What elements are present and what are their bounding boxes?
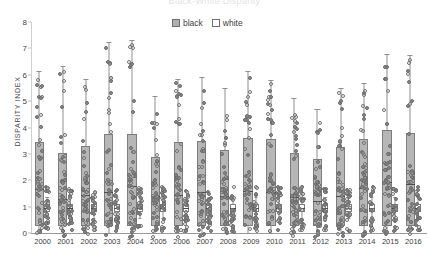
year-group-2004[interactable]: 2004 [124,22,147,233]
box-white-2007[interactable] [206,22,212,233]
box-black-2014[interactable] [359,22,368,233]
year-group-2006[interactable]: 2006 [170,22,193,233]
box-white-2009[interactable] [253,22,259,233]
data-point [36,206,40,210]
year-group-2014[interactable]: 2014 [355,22,378,233]
data-point [246,95,250,99]
data-point [155,112,159,116]
whisker-cap-lower [153,233,158,234]
whisker-cap-upper [222,88,227,89]
x-axis-tick-2011: 2011 [289,237,305,246]
data-point [255,186,259,190]
data-point [137,205,141,209]
data-point [253,207,257,211]
x-axis-tick-2007: 2007 [196,237,213,246]
data-point [254,223,258,227]
box-white-2000[interactable] [44,22,50,233]
data-point [293,113,297,117]
whisker-cap-upper [338,88,343,89]
whisker-cap-upper [129,40,134,41]
box-white-2004[interactable] [137,22,143,233]
data-point [340,216,344,220]
data-point [127,60,131,64]
box-white-2005[interactable] [160,22,166,233]
data-point [232,185,236,189]
year-group-2015[interactable]: 2015 [379,22,402,233]
data-point [359,208,363,212]
box-white-2006[interactable] [183,22,189,233]
year-group-2007[interactable]: 2007 [193,22,216,233]
box-black-2012[interactable] [313,22,322,233]
data-point [385,230,389,234]
data-point [109,210,113,214]
year-group-2000[interactable]: 2000 [31,22,54,233]
box-black-2008[interactable] [220,22,229,233]
data-point [294,209,298,213]
year-group-2011[interactable]: 2011 [286,22,309,233]
data-point [83,207,87,211]
whisker-cap-upper [254,197,257,198]
box-black-2010[interactable] [266,22,275,233]
box-black-2002[interactable] [81,22,90,233]
year-group-2013[interactable]: 2013 [332,22,355,233]
data-point [113,212,117,216]
year-group-2005[interactable]: 2005 [147,22,170,233]
year-group-2010[interactable]: 2010 [263,22,286,233]
data-point [108,122,112,126]
data-point [277,191,281,195]
data-point [407,132,411,136]
year-group-2001[interactable]: 2001 [54,22,77,233]
box-black-2015[interactable] [382,22,391,233]
year-group-2012[interactable]: 2012 [309,22,332,233]
data-point [408,58,412,62]
data-point [199,122,203,126]
box-black-2016[interactable] [406,22,415,233]
box-white-2013[interactable] [345,22,351,233]
y-axis-tick-4: 4 [23,123,27,132]
year-group-2008[interactable]: 2008 [216,22,239,233]
data-point [338,209,342,213]
data-point [198,133,202,137]
box-white-2016[interactable] [415,22,421,233]
box-white-2010[interactable] [276,22,282,233]
box-white-2014[interactable] [369,22,375,233]
box-black-2009[interactable] [243,22,252,233]
box-black-2011[interactable] [290,22,299,233]
data-point [383,213,387,217]
data-point [86,188,90,192]
data-point [244,215,248,219]
data-point [384,77,388,81]
box-white-2011[interactable] [299,22,305,233]
box-white-2008[interactable] [230,22,236,233]
box-black-2006[interactable] [174,22,183,233]
x-axis-tick-2010: 2010 [266,237,283,246]
data-point [267,142,271,146]
box-white-2015[interactable] [392,22,398,233]
year-group-2002[interactable]: 2002 [77,22,100,233]
data-point [407,80,411,84]
box-white-2001[interactable] [67,22,73,233]
data-point [200,106,204,110]
data-point [300,185,304,189]
data-point [407,214,411,218]
data-point [391,192,395,196]
box-black-2000[interactable] [35,22,44,233]
data-point [295,121,299,125]
box-black-2007[interactable] [197,22,206,233]
year-group-2016[interactable]: 2016 [402,22,425,233]
box-black-2005[interactable] [151,22,160,233]
year-group-2003[interactable]: 2003 [101,22,124,233]
data-point [59,141,63,145]
data-point [337,225,341,229]
data-point [336,232,340,236]
y-axis-tick-6: 6 [23,70,27,79]
data-point [109,91,113,95]
box-white-2012[interactable] [322,22,328,233]
data-point [70,209,74,213]
box-black-2004[interactable] [127,22,136,233]
year-group-2009[interactable]: 2009 [240,22,263,233]
box-white-2003[interactable] [114,22,120,233]
data-point [276,228,280,232]
box-white-2002[interactable] [91,22,97,233]
data-point [184,219,188,223]
